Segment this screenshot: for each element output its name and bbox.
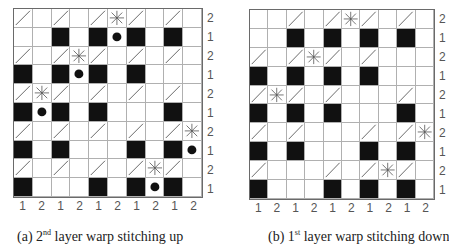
- grid-cell: [305, 86, 323, 105]
- black-square-cell: [287, 29, 305, 48]
- black-dot-icon: [70, 65, 89, 84]
- diagonal-line-cell: [14, 9, 33, 28]
- grid-cell: [305, 10, 323, 29]
- diagonal-line-cell: [360, 10, 378, 29]
- grid-cell: [268, 142, 286, 161]
- black-square-cell: [397, 180, 415, 199]
- diagonal-line-cell: [52, 84, 71, 103]
- black-square-cell: [250, 180, 268, 199]
- grid-cell: [305, 67, 323, 86]
- black-square-cell: [52, 65, 71, 84]
- caption-b: (b) 1st layer warp stitching down: [268, 228, 449, 245]
- grid-cell: [342, 48, 360, 67]
- grid-cell: [305, 142, 323, 161]
- asterisk-star-icon: [379, 161, 397, 180]
- grid-cell: [33, 28, 52, 47]
- grid-cell: [268, 180, 286, 199]
- diagonal-line-cell: [324, 48, 342, 67]
- col-label: 1: [13, 199, 32, 213]
- grid-cell: [183, 9, 202, 28]
- black-square-cell: [324, 104, 342, 123]
- grid-cell: [108, 178, 127, 197]
- black-square-cell: [360, 180, 378, 199]
- grid-cell: [164, 65, 183, 84]
- diagonal-line-cell: [287, 48, 305, 67]
- black-square-cell: [52, 103, 71, 122]
- caption-a: (a) 2nd layer warp stitching up: [17, 228, 183, 245]
- grid-cell: [146, 103, 165, 122]
- grid-cell: [379, 10, 397, 29]
- black-square-cell: [324, 29, 342, 48]
- grid-cell: [183, 28, 202, 47]
- col-label: 2: [416, 201, 435, 215]
- grid-cell: [342, 180, 360, 199]
- grid-cell: [70, 178, 89, 197]
- row-label: 2: [207, 163, 214, 177]
- black-square-cell: [14, 65, 33, 84]
- grid-cell: [287, 161, 305, 180]
- diagonal-line-cell: [164, 84, 183, 103]
- row-label: 1: [207, 182, 214, 196]
- col-label: 2: [32, 199, 51, 213]
- grid-cell: [342, 86, 360, 105]
- grid-cell: [183, 47, 202, 66]
- grid-cell: [183, 103, 202, 122]
- diagonal-line-cell: [89, 84, 108, 103]
- black-square-cell: [164, 28, 183, 47]
- grid-cell: [70, 159, 89, 178]
- black-square-cell: [52, 28, 71, 47]
- grid-cell: [305, 161, 323, 180]
- diagonal-line-cell: [397, 123, 415, 142]
- asterisk-star-icon: [183, 122, 202, 141]
- row-label: 2: [207, 87, 214, 101]
- black-square-cell: [360, 67, 378, 86]
- col-label: 1: [323, 201, 342, 215]
- row-label: 1: [439, 69, 446, 83]
- black-square-cell: [127, 178, 146, 197]
- diagonal-line-cell: [324, 161, 342, 180]
- col-label: 2: [70, 199, 89, 213]
- diagonal-line-cell: [14, 84, 33, 103]
- grid-cell: [89, 141, 108, 160]
- row-label: 1: [207, 68, 214, 82]
- weave-grid-b: [249, 9, 435, 200]
- black-square-cell: [14, 141, 33, 160]
- col-label: 1: [286, 201, 305, 215]
- caption-a-suffix: layer warp stitching up: [51, 229, 183, 244]
- grid-cell: [397, 48, 415, 67]
- grid-cell: [146, 9, 165, 28]
- col-label: 2: [268, 201, 287, 215]
- row-label: 2: [439, 88, 446, 102]
- diagonal-line-cell: [52, 47, 71, 66]
- grid-cell: [379, 180, 397, 199]
- black-square-cell: [164, 141, 183, 160]
- col-label: 2: [305, 201, 324, 215]
- grid-cell: [33, 178, 52, 197]
- grid-cell: [268, 123, 286, 142]
- grid-cell: [127, 103, 146, 122]
- asterisk-star-icon: [108, 9, 127, 28]
- grid-cell: [342, 123, 360, 142]
- col-label: 2: [379, 201, 398, 215]
- row-label: 1: [439, 145, 446, 159]
- diagonal-line-cell: [89, 159, 108, 178]
- grid-cell: [183, 159, 202, 178]
- diagonal-line-cell: [14, 159, 33, 178]
- grid-cell: [14, 28, 33, 47]
- caption-b-suffix: layer warp stitching down: [300, 229, 449, 244]
- diagonal-line-cell: [360, 161, 378, 180]
- black-square-cell: [164, 103, 183, 122]
- grid-cell: [268, 161, 286, 180]
- row-label: 2: [207, 49, 214, 63]
- grid-cell: [70, 84, 89, 103]
- black-square-cell: [287, 142, 305, 161]
- diagonal-line-cell: [250, 161, 268, 180]
- grid-cell: [250, 29, 268, 48]
- row-label: 1: [207, 30, 214, 44]
- grid-cell: [287, 180, 305, 199]
- col-label: 2: [184, 199, 203, 213]
- asterisk-star-icon: [416, 123, 434, 142]
- diagonal-line-cell: [127, 9, 146, 28]
- black-square-cell: [164, 178, 183, 197]
- black-square-cell: [324, 67, 342, 86]
